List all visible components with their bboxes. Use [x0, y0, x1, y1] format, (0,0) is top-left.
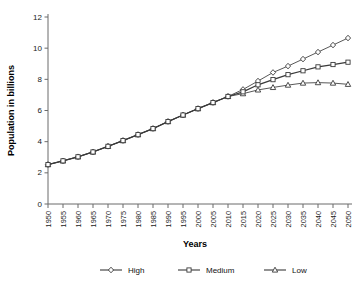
- y-axis-tick-label: 8: [38, 75, 43, 84]
- y-axis-tick-label: 6: [38, 106, 43, 115]
- marker-diamond: [315, 49, 320, 55]
- y-axis-tick-label: 12: [33, 13, 42, 22]
- marker-square: [241, 90, 245, 94]
- marker-diamond: [285, 63, 290, 69]
- marker-square: [136, 133, 140, 137]
- marker-square: [61, 159, 65, 163]
- x-axis-tick-label: 1965: [89, 211, 98, 227]
- y-axis-tick-label: 0: [38, 200, 43, 209]
- marker-square: [271, 78, 275, 82]
- x-axis-tick-label: 1980: [134, 211, 143, 227]
- marker-square: [187, 268, 191, 272]
- x-axis-tick-label: 1985: [149, 211, 158, 227]
- legend-label-medium: Medium: [206, 266, 235, 275]
- marker-diamond: [300, 56, 305, 62]
- marker-diamond: [345, 35, 350, 41]
- marker-square: [286, 73, 290, 77]
- x-axis-tick-label: 1960: [74, 211, 83, 227]
- y-axis-tick-label: 4: [38, 137, 43, 146]
- y-axis-title: Population in billions: [6, 65, 16, 156]
- marker-square: [91, 150, 95, 154]
- x-axis-tick-label: 2005: [209, 211, 218, 227]
- marker-square: [346, 60, 350, 64]
- x-axis-tick-label: 1970: [104, 211, 113, 227]
- marker-diamond: [330, 42, 335, 48]
- x-axis-tick-label: 1995: [179, 211, 188, 227]
- population-projection-chart: 0246810121950195519601965197019751980198…: [0, 0, 363, 283]
- marker-square: [331, 62, 335, 66]
- legend-marker-high: [108, 267, 113, 273]
- marker-square: [121, 138, 125, 142]
- marker-square: [256, 83, 260, 87]
- x-axis-tick-label: 2010: [224, 211, 233, 227]
- x-axis-tick-label: 2045: [329, 211, 338, 227]
- marker-diamond: [270, 70, 275, 76]
- x-axis-tick-label: 1975: [119, 211, 128, 227]
- marker-square: [226, 94, 230, 98]
- marker-square: [316, 65, 320, 69]
- marker-square: [46, 162, 50, 166]
- marker-square: [211, 100, 215, 104]
- y-axis-tick-label: 10: [33, 44, 42, 53]
- x-axis-tick-label: 1955: [59, 211, 68, 227]
- marker-square: [196, 107, 200, 111]
- x-axis-tick-label: 2000: [194, 211, 203, 227]
- legend-marker-medium: [187, 268, 191, 272]
- series-high: [45, 35, 350, 167]
- x-axis-tick-label: 2030: [284, 211, 293, 227]
- marker-square: [76, 155, 80, 159]
- x-axis-tick-label: 1950: [44, 211, 53, 227]
- marker-square: [106, 144, 110, 148]
- x-axis-tick-label: 1990: [164, 211, 173, 227]
- marker-square: [166, 119, 170, 123]
- x-axis-tick-label: 2050: [344, 211, 353, 227]
- x-axis-tick-label: 2035: [299, 211, 308, 227]
- marker-square: [301, 69, 305, 73]
- marker-square: [151, 126, 155, 130]
- x-axis-title: Years: [183, 239, 207, 249]
- marker-square: [181, 113, 185, 117]
- legend-label-high: High: [128, 266, 144, 275]
- y-axis-tick-label: 2: [38, 168, 43, 177]
- x-axis-tick-label: 2040: [314, 211, 323, 227]
- chart-legend: HighMediumLow: [100, 266, 307, 275]
- marker-diamond: [108, 267, 113, 273]
- x-axis-tick-label: 2015: [239, 211, 248, 227]
- x-axis-tick-label: 2025: [269, 211, 278, 227]
- chart-canvas: 0246810121950195519601965197019751980198…: [0, 0, 363, 283]
- series-medium: [46, 60, 350, 167]
- legend-label-low: Low: [292, 266, 307, 275]
- x-axis-tick-label: 2020: [254, 211, 263, 227]
